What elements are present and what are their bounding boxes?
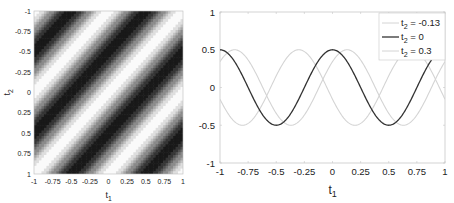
x-tick-label: -0.25: [294, 166, 316, 177]
heatmap-x-tick: -0.75: [45, 178, 61, 185]
heatmap-x-tick: 1: [181, 178, 185, 185]
heatmap-x-tick: 0.5: [141, 178, 151, 185]
heatmap-x-tick: 0.25: [120, 178, 134, 185]
heatmap-cells: [34, 11, 184, 175]
y-tick-label: 0.5: [202, 44, 215, 55]
x-tick-label: -0.5: [268, 166, 284, 177]
x-axis-label: t1: [329, 183, 337, 199]
legend: t2 = -0.13t2 = 0t2 = 0.3: [379, 13, 445, 60]
heatmap-x-tick: -0.25: [82, 178, 98, 185]
heatmap-x-tick: -1: [31, 178, 37, 185]
line-plot: -1-0.75-0.5-0.2500.250.50.75110.50-0.5-1…: [199, 7, 448, 199]
heatmap-y-tick: -0.75: [15, 28, 31, 35]
x-tick-label: 1: [442, 166, 447, 177]
heatmap-y-tick: -0.25: [15, 69, 31, 76]
heatmap-x-label: t1: [106, 190, 113, 202]
heatmap-x-tick: 0.75: [158, 178, 172, 185]
heatmap-x-tick: -0.5: [65, 178, 77, 185]
x-tick-label: -1: [216, 166, 224, 177]
heatmap-y-tick: -0.5: [19, 48, 31, 55]
y-tick-label: 0: [210, 82, 215, 93]
heatmap-y-tick: 0.25: [17, 109, 31, 116]
heatmap-y-tick: 1: [27, 171, 31, 178]
heatmap-y-tick: 0.5: [21, 130, 31, 137]
heatmap-y-tick: 0: [27, 89, 31, 96]
y-tick-label: -0.5: [199, 120, 215, 131]
x-tick-label: 0.75: [408, 166, 427, 177]
x-tick-label: 0.5: [382, 166, 395, 177]
x-tick-label: -0.75: [237, 166, 259, 177]
heatmap-y-label: t2: [2, 89, 14, 96]
x-tick-label: 0.25: [351, 166, 370, 177]
figure: -1-0.75-0.5-0.2500.250.50.751-1-0.75-0.5…: [0, 0, 454, 203]
heatmap-y-tick: -1: [25, 8, 31, 15]
heatmap-plot: -1-0.75-0.5-0.2500.250.50.751-1-0.75-0.5…: [2, 8, 185, 202]
x-tick-label: 0: [330, 166, 335, 177]
y-tick-label: -1: [207, 158, 215, 169]
heatmap-x-tick: 0: [107, 178, 111, 185]
y-tick-label: 1: [210, 7, 215, 18]
heatmap-y-tick: 0.75: [17, 150, 31, 157]
